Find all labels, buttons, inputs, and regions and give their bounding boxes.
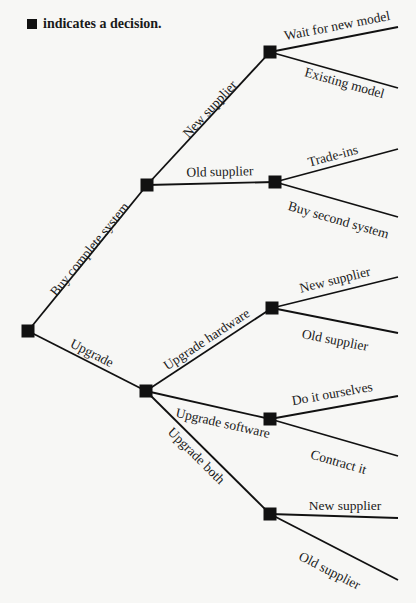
decision-node-upg-hw bbox=[266, 302, 279, 315]
branch-label: Buy second system bbox=[286, 198, 391, 241]
branch-label: Old supplier bbox=[301, 326, 370, 354]
branch-label: Upgrade hardware bbox=[161, 305, 253, 373]
decision-node-upgrade bbox=[140, 385, 153, 398]
branch-label: Upgrade bbox=[68, 336, 116, 370]
branch-label: Buy complete system bbox=[47, 199, 132, 299]
decision-node-upg-sw bbox=[264, 413, 277, 426]
branch-label: Trade-ins bbox=[306, 142, 359, 170]
branch-label: Do it ourselves bbox=[291, 379, 374, 408]
branch-line bbox=[270, 514, 398, 518]
branch-line bbox=[28, 331, 146, 391]
branch-label: New supplier bbox=[309, 498, 382, 513]
decision-node-buy bbox=[141, 179, 154, 192]
branch-line bbox=[146, 391, 270, 514]
decision-node-upg-both bbox=[264, 508, 277, 521]
decision-tree: Buy complete systemUpgradeNew supplierOl… bbox=[0, 0, 416, 603]
branch-label: Upgrade both bbox=[165, 424, 228, 487]
branch-label: Upgrade software bbox=[174, 405, 271, 441]
branch-line bbox=[270, 419, 398, 456]
branch-line bbox=[147, 182, 275, 185]
branch-label: Old supplier bbox=[186, 163, 254, 180]
branch-label: New supplier bbox=[180, 77, 241, 141]
branch-label: Old supplier bbox=[296, 548, 363, 592]
branch-line bbox=[146, 308, 272, 391]
branch-label: New supplier bbox=[298, 264, 372, 296]
decision-node-root bbox=[22, 325, 35, 338]
branch-label: Contract it bbox=[309, 447, 369, 477]
branch-label: Wait for new model bbox=[283, 8, 391, 43]
branch-line bbox=[272, 308, 398, 333]
decision-node-buy-old bbox=[269, 176, 282, 189]
decision-node-buy-new bbox=[264, 46, 277, 59]
branch-labels: Buy complete systemUpgradeNew supplierOl… bbox=[47, 8, 391, 593]
branch-label: Existing model bbox=[303, 65, 386, 102]
